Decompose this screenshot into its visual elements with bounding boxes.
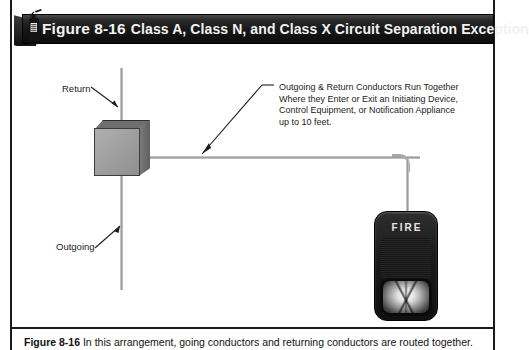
strobe-lens-facets [383, 281, 429, 313]
strobe-lens-housing [380, 278, 432, 316]
callout-line-3: Control Equipment, or Notification Appli… [279, 105, 479, 117]
junction-box-side [139, 120, 150, 176]
horizontal-conductor [142, 156, 420, 159]
figure-title: Figure 8-16 Class A, Class N, and Class … [42, 14, 492, 44]
figure-number: Figure 8-16 [42, 20, 126, 38]
caption-figure-number: Figure 8-16 [24, 336, 80, 348]
callout-leader-arrow [196, 84, 276, 160]
return-label: Return [62, 83, 91, 94]
appliance-grille [381, 238, 431, 278]
outgoing-leader-arrow [94, 222, 126, 250]
callout-line-2: Where they Enter or Exit an Initiating D… [279, 94, 479, 106]
outgoing-label: Outgoing [56, 241, 95, 252]
junction-box [94, 128, 140, 176]
figure-caption: Figure 8-16 In this arrangement, going c… [24, 336, 484, 348]
callout-text: Outgoing & Return Conductors Run Togethe… [279, 82, 479, 128]
callout-line-4: up to 10 feet. [279, 117, 479, 129]
caption-text: In this arrangement, going conductors an… [83, 336, 473, 348]
appliance-fire-label: FIRE [375, 222, 439, 233]
notification-appliance: FIRE [374, 211, 438, 321]
return-leader-arrow [90, 82, 126, 112]
page-border-right [493, 0, 495, 350]
page-border-bottom [10, 327, 495, 329]
callout-line-1: Outgoing & Return Conductors Run Togethe… [279, 82, 479, 94]
figure-title-text: Class A, Class N, and Class X Circuit Se… [131, 21, 529, 37]
diagram-canvas: Return Outgoing Outgoing & Return Conduc… [12, 46, 493, 326]
